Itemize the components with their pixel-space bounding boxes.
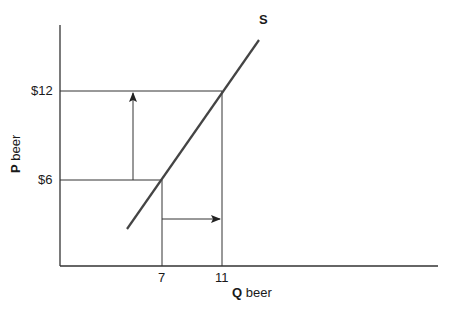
supply-curve <box>127 40 259 229</box>
x-tick-11: 11 <box>215 270 229 285</box>
y-axis-label: P beer <box>8 135 23 173</box>
x-axis-text: beer <box>246 285 272 300</box>
x-axis-var: Q <box>232 285 242 300</box>
y-tick-6: $6 <box>38 172 52 187</box>
supply-diagram <box>0 0 456 315</box>
y-axis-var: P <box>8 164 23 173</box>
y-tick-12: $12 <box>31 83 53 98</box>
y-axis-text: beer <box>8 135 23 161</box>
x-tick-7: 7 <box>158 270 165 285</box>
curve-label-s: S <box>259 12 268 27</box>
x-axis-label: Q beer <box>232 285 272 300</box>
